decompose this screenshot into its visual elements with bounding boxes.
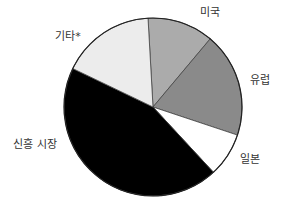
label-other: 기타* (55, 30, 81, 43)
label-emerging-markets: 신흥 시장 (13, 137, 57, 151)
label-usa: 미국 (200, 6, 220, 19)
pie-slices (64, 18, 242, 196)
label-japan: 일본 (240, 152, 260, 166)
label-europe: 유럽 (250, 73, 270, 87)
pie-chart: 미국 유럽 일본 신흥 시장 기타* (0, 0, 283, 216)
